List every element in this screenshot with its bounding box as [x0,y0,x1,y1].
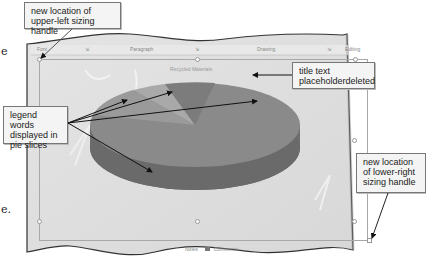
sizing-handle-right-center[interactable] [352,138,357,143]
dialog-launcher-icon[interactable]: ⇲ [85,46,89,52]
callout-upper-left-handle: new location of upper-left sizing handle [24,2,121,29]
ribbon-group-font[interactable]: Font [37,46,47,52]
callout-legend-words: legend words displayed in pie slices [3,106,68,144]
sizing-handle-bottom-center[interactable] [195,219,200,224]
sizing-handle-lower-right[interactable] [367,238,372,243]
dialog-launcher-icon[interactable]: ⇲ [327,46,331,52]
dialog-launcher-icon[interactable]: ⇲ [195,46,199,52]
comments-icon [205,247,210,251]
ribbon-group-editing[interactable]: Editing [345,46,360,52]
ribbon-group-paragraph[interactable]: Paragraph [130,46,153,52]
sizing-handle-top-center[interactable] [195,57,200,62]
status-bar: Notes Comments [185,246,238,252]
edge-text-fragment: e [1,45,8,58]
edge-text-fragment: e. [1,203,11,216]
sizing-handle-lower-left[interactable] [37,219,42,224]
callout-title-deleted: title text placeholderdeleted [292,62,375,89]
callout-lower-right-handle: new location of lower-right sizing handl… [356,153,426,193]
ribbon-group-drawing[interactable]: Drawing [257,46,275,52]
ribbon-group-labels: Font ⇲ Paragraph ⇲ Drawing ⇲ Editing [35,46,355,56]
sizing-handle-upper-left[interactable] [37,57,42,62]
notes-button[interactable]: Notes [185,246,198,252]
comments-button[interactable]: Comments [214,246,238,252]
sizing-handle-lower-right-old[interactable] [352,219,357,224]
